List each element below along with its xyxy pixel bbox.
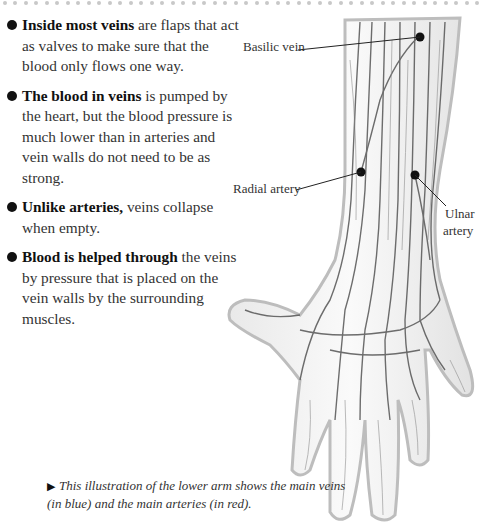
label-basilic-vein: Basilic vein (243, 38, 305, 55)
bullet-dot-icon (7, 252, 17, 262)
label-ulnar-artery-line2: artery (443, 222, 473, 239)
caption-arrow-icon: ▶ (47, 480, 55, 492)
arm-illustration (200, 0, 481, 527)
bullet-lead: Unlike arteries, (22, 198, 123, 215)
bullet-dot-icon (7, 202, 17, 212)
bullet-dot-icon (7, 20, 17, 30)
bullet-lead: Inside most veins (22, 16, 134, 33)
radial-artery-marker (357, 168, 366, 177)
bullet-lead: Blood is helped through (22, 248, 178, 265)
bullet-dot-icon (7, 91, 17, 101)
label-ulnar-artery-line1: Ulnar (445, 205, 475, 222)
caption-text: This illustration of the lower arm shows… (47, 478, 345, 511)
ulnar-artery-marker (411, 171, 420, 180)
bullet-lead: The blood in veins (22, 87, 141, 104)
basilic-vein-marker (416, 33, 425, 42)
figure-caption: ▶This illustration of the lower arm show… (47, 477, 347, 512)
label-radial-artery: Radial artery (233, 180, 301, 197)
